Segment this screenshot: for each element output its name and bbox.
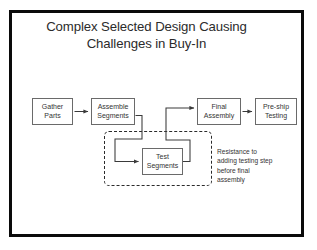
slide-canvas: Complex Selected Design Causing Challeng…	[0, 0, 317, 250]
annotation-resistance-note: Resistance to adding testing step before…	[217, 147, 293, 184]
annotation-line-4: assembly	[217, 175, 293, 184]
flow-node-pre-ship-testing-line1: Pre-ship	[263, 103, 289, 112]
flow-node-gather-parts[interactable]: Gather Parts	[32, 98, 73, 125]
flow-node-assemble-segments-line2: Segments	[97, 112, 129, 121]
flow-node-pre-ship-testing[interactable]: Pre-ship Testing	[255, 98, 297, 125]
flow-node-final-assembly-line2: Assembly	[204, 112, 234, 121]
flow-node-gather-parts-line1: Gather	[42, 103, 63, 112]
flow-node-pre-ship-testing-line2: Testing	[265, 112, 287, 121]
flow-node-test-segments-line1: Test	[156, 153, 169, 162]
annotation-line-2: adding testing step	[217, 156, 293, 165]
flow-node-final-assembly-line1: Final	[211, 103, 226, 112]
flow-node-final-assembly[interactable]: Final Assembly	[197, 98, 241, 125]
flow-node-assemble-segments[interactable]: Assemble Segments	[91, 98, 135, 125]
annotation-line-1: Resistance to	[217, 147, 293, 156]
annotation-line-3: before final	[217, 166, 293, 175]
flow-node-gather-parts-line2: Parts	[44, 112, 60, 121]
page-title: Complex Selected Design Causing Challeng…	[14, 18, 279, 52]
flow-node-test-segments-line2: Segments	[147, 162, 179, 171]
title-line-1: Complex Selected Design Causing	[46, 19, 247, 34]
flow-node-assemble-segments-line1: Assemble	[98, 103, 129, 112]
title-line-2: Challenges in Buy-In	[14, 35, 279, 52]
flow-node-test-segments[interactable]: Test Segments	[142, 148, 183, 175]
